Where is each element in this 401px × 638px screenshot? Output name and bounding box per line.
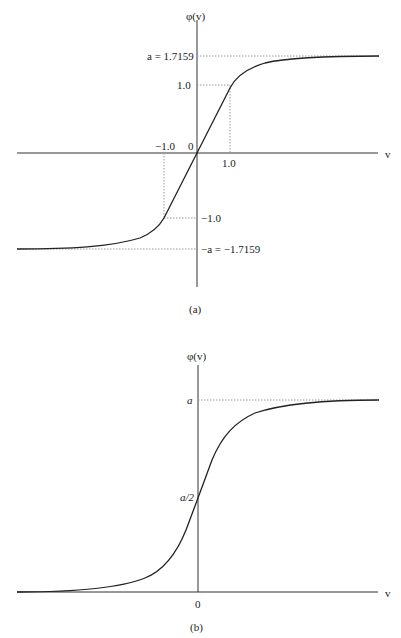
panel-a-plot <box>17 20 379 287</box>
panel-b-y-axis-label: φ(v) <box>187 350 206 362</box>
panel-b-caption: (b) <box>190 621 203 633</box>
panel-b-plot <box>17 365 379 592</box>
panel-a-neg-a-label: −a = −1.7159 <box>201 243 260 255</box>
figure-canvas <box>0 0 401 638</box>
panel-a-x-axis-label: v <box>385 148 391 160</box>
panel-a-caption: (a) <box>189 303 201 315</box>
panel-a-neg-one-x-label: −1.0 <box>155 140 175 152</box>
panel-a-y-axis-label: φ(v) <box>186 10 205 22</box>
panel-b-x-axis-label: v <box>385 587 391 599</box>
panel-b-origin-label: 0 <box>195 598 201 610</box>
panel-b-a-half-label: a/2 <box>180 491 194 503</box>
panel-a-one-y-label: 1.0 <box>177 79 191 91</box>
panel-a-origin-label: 0 <box>188 140 194 152</box>
panel-b-a-label: a <box>187 394 193 406</box>
panel-a-one-x-label: 1.0 <box>222 157 236 169</box>
panel-a-a-label: a = 1.7159 <box>147 50 194 62</box>
panel-a-neg-one-y-label: −1.0 <box>201 212 221 224</box>
